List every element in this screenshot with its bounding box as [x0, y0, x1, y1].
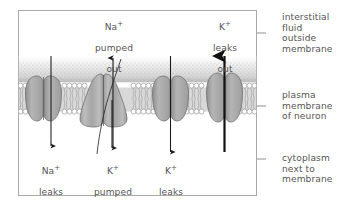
- label-na-leaks-in: Na+ leaks in: [22, 155, 80, 206]
- label-na-pumped-out-line2: out: [84, 64, 144, 75]
- label-na-leaks-in-ion: Na+: [22, 166, 80, 177]
- label-k-pumped-in: K+ pumped in: [84, 155, 142, 206]
- label-k-leaks-in: K+ leaks in: [143, 155, 199, 206]
- label-k-leaks-out-line1: leaks: [197, 43, 253, 54]
- label-cytoplasm: cytoplasm next to membrane: [282, 153, 342, 185]
- label-plasma-membrane: plasma membrane of neuron: [282, 90, 342, 122]
- label-na-pumped-out-line1: pumped: [84, 43, 144, 54]
- label-na-pumped-out-ion: Na+: [84, 22, 144, 33]
- label-k-leaks-out: K+ leaks out: [197, 11, 253, 85]
- label-na-pumped-out: Na+ pumped out: [84, 11, 144, 85]
- label-na-leaks-in-line1: leaks: [22, 187, 80, 198]
- label-leader-ticks: [257, 33, 266, 159]
- label-interstitial-fluid: interstitial fluid outside membrane: [282, 12, 342, 54]
- label-k-pumped-in-ion: K+: [84, 166, 142, 177]
- label-k-leaks-out-ion: K+: [197, 22, 253, 33]
- label-k-leaks-out-line2: out: [197, 64, 253, 75]
- label-k-leaks-in-ion: K+: [143, 166, 199, 177]
- diagram-canvas: Na+ pumped out K+ leaks out Na+ leaks in…: [0, 0, 343, 206]
- label-k-leaks-in-line1: leaks: [143, 187, 199, 198]
- label-k-pumped-in-line1: pumped: [84, 187, 142, 198]
